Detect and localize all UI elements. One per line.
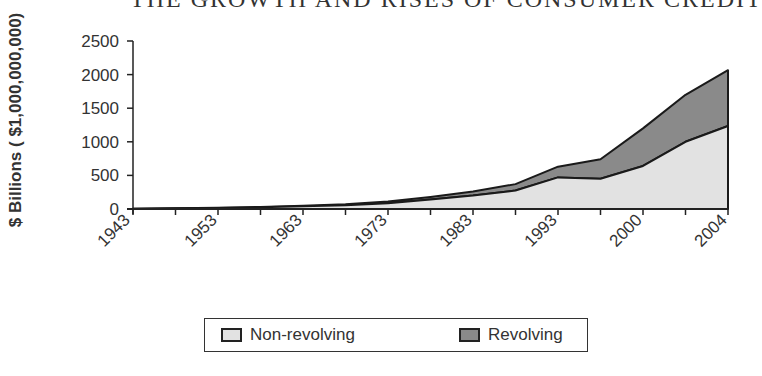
x-tick-label: 2000	[606, 210, 646, 250]
legend-label: Non-revolving	[250, 325, 355, 345]
y-tick-label: 500	[91, 166, 119, 185]
x-tick-label: 1973	[351, 210, 391, 250]
x-tick-label: 1963	[266, 210, 306, 250]
y-tick-label: 2000	[81, 66, 119, 85]
y-tick-label: 1500	[81, 99, 119, 118]
x-tick-label: 1943	[94, 210, 134, 250]
non-revolving-swatch-icon	[221, 328, 242, 342]
legend-item-non-revolving: Non-revolving	[221, 325, 355, 345]
x-tick-label: 1953	[181, 210, 221, 250]
legend: Non-revolving Revolving	[204, 318, 588, 352]
x-tick-label: 1993	[521, 210, 561, 250]
y-tick-label: 2500	[81, 32, 119, 51]
legend-item-revolving: Revolving	[459, 325, 563, 345]
x-tick-label: 1983	[436, 210, 476, 250]
y-tick-label: 1000	[81, 133, 119, 152]
revolving-swatch-icon	[459, 328, 480, 342]
x-tick-label: 2004	[691, 210, 731, 250]
legend-label: Revolving	[488, 325, 563, 345]
